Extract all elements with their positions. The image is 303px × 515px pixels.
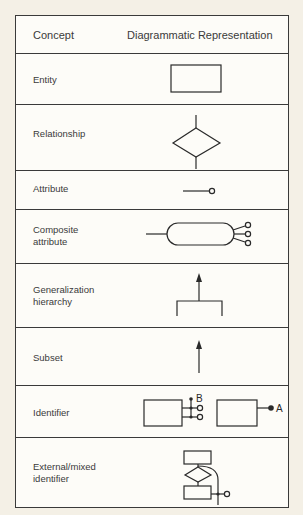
relationship-diamond-icon [16,105,288,171]
header-representation: Diagrammatic Representation [127,29,273,41]
table-row-identifier: Identifier B A [16,385,288,437]
table-row-attribute: Attribute [16,170,288,209]
header-concept: Concept [33,29,74,41]
identifier-label-b: B [196,393,203,404]
composite-attribute-icon [16,210,288,264]
external-identifier-icon [16,438,288,509]
table-row-subset: Subset [16,327,288,385]
table-row-relationship: Relationship [16,104,288,170]
identifier-icon: B A [16,386,288,438]
generalization-hierarchy-icon [16,264,288,328]
table-row-composite-attribute: Composite attribute [16,209,288,263]
entity-rectangle-icon [16,54,288,104]
table-row-entity: Entity [16,53,288,104]
concept-table: Concept Diagrammatic Representation Enti… [15,15,289,508]
table-header-row: Concept Diagrammatic Representation [16,16,288,53]
attribute-icon [16,171,288,210]
table-row-external-identifier: External/mixed identifier [16,437,288,508]
identifier-label-a: A [276,403,283,414]
subset-arrow-icon [16,328,288,386]
table-row-generalization-hierarchy: Generalization hierarchy [16,263,288,327]
